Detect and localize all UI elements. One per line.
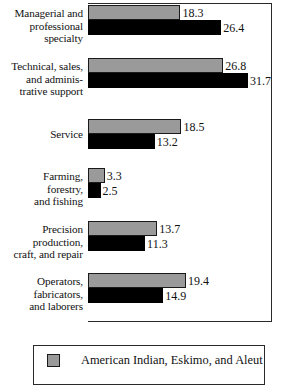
- bar-value-label: 13.7: [159, 223, 180, 235]
- category-label-line: Farming,: [0, 170, 83, 183]
- category-label-line: Operators,: [0, 275, 83, 288]
- bar-value-label: 18.5: [183, 121, 204, 133]
- bar-value-label: 26.4: [223, 22, 244, 34]
- category-label: Operators, fabricators, and laborers: [0, 275, 83, 313]
- bar-series-a: 26.8: [88, 58, 223, 73]
- category-label-line: fabricators,: [0, 288, 83, 301]
- bar-series-b: 11.3: [88, 236, 145, 251]
- category-label-line: professional: [0, 20, 83, 33]
- legend-swatch-icon: [47, 354, 60, 367]
- bar-value-label: 26.8: [225, 60, 246, 72]
- bar-series-b: 26.4: [88, 20, 221, 35]
- bar-series-a: 13.7: [88, 221, 157, 236]
- bar-value-label: 3.3: [107, 170, 122, 182]
- bar-series-b: 14.9: [88, 288, 163, 303]
- bar-pair: 18.5 13.2: [88, 119, 181, 149]
- bar-pair: 18.3 26.4: [88, 5, 221, 35]
- bar-series-a: 3.3: [88, 168, 105, 183]
- bar-series-b: 2.5: [88, 183, 101, 198]
- category-label-line: and laborers: [0, 300, 83, 313]
- bar-value-label: 13.2: [157, 136, 178, 148]
- bar-value-label: 18.3: [182, 7, 203, 19]
- category-label: Technical, sales, and adminis- trative s…: [0, 60, 83, 98]
- bar-pair: 3.3 2.5: [88, 168, 105, 198]
- bar-series-b: 13.2: [88, 134, 155, 149]
- chart-legend: American Indian, Eskimo, and Aleut: [33, 345, 265, 385]
- bar-value-label: 11.3: [147, 238, 168, 250]
- bar-series-a: 18.3: [88, 5, 180, 20]
- category-label-line: and adminis-: [0, 73, 83, 86]
- category-label-line: production,: [0, 236, 83, 249]
- category-label-line: Technical, sales,: [0, 60, 83, 73]
- category-label-line: forestry,: [0, 183, 83, 196]
- category-label: Service: [0, 128, 83, 141]
- category-label-line: craft, and repair: [0, 248, 83, 261]
- bar-series-a: 19.4: [88, 273, 186, 288]
- category-label: Farming, forestry, and fishing: [0, 170, 83, 208]
- bar-value-label: 31.7: [250, 75, 271, 87]
- legend-item: American Indian, Eskimo, and Aleut: [47, 354, 263, 367]
- bar-value-label: 2.5: [103, 185, 118, 197]
- bar-pair: 13.7 11.3: [88, 221, 157, 251]
- bar-series-a: 18.5: [88, 119, 181, 134]
- category-label-line: specialty: [0, 32, 83, 45]
- category-label-line: Precision: [0, 223, 83, 236]
- bar-value-label: 19.4: [188, 275, 209, 287]
- category-label-line: and fishing: [0, 195, 83, 208]
- bar-series-b: 31.7: [88, 73, 248, 88]
- category-label-line: Service: [0, 128, 83, 141]
- category-label: Managerial and professional specialty: [0, 7, 83, 45]
- category-label: Precision production, craft, and repair: [0, 223, 83, 261]
- category-label-line: Managerial and: [0, 7, 83, 20]
- legend-label: American Indian, Eskimo, and Aleut: [81, 354, 263, 367]
- bar-value-label: 14.9: [165, 290, 186, 302]
- bar-pair: 26.8 31.7: [88, 58, 248, 88]
- bar-pair: 19.4 14.9: [88, 273, 186, 303]
- category-label-line: trative support: [0, 85, 83, 98]
